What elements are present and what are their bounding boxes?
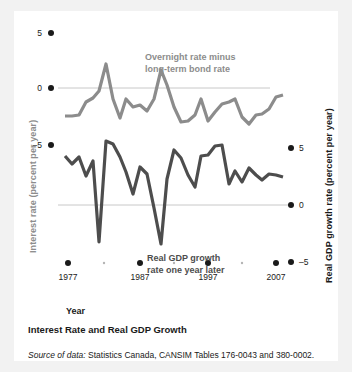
x-tick-dot-1987 [137, 260, 143, 266]
right-tick-dot-minus5 [288, 259, 294, 265]
right-tick-dot-5 [288, 145, 294, 151]
annotation-interest-line2: long-term bond rate [145, 63, 236, 75]
right-axis-title: Real GDP growth rate (percent per year) [324, 108, 334, 283]
right-tick-dot-0 [288, 202, 294, 208]
figure-card: 5 0 –5 5 0 –5 Interest rate (percent per… [14, 11, 338, 361]
left-axis-title: Interest rate (percent per year) [28, 120, 38, 253]
right-tick-label-0: 0 [299, 201, 304, 210]
x-tick-label-1997: 1997 [188, 272, 228, 282]
right-tick-label-minus5: –5 [299, 258, 308, 267]
left-tick-dot-minus5 [48, 142, 54, 148]
figure-title: Interest Rate and Real GDP Growth [28, 324, 187, 335]
left-tick-label-5: 5 [22, 29, 42, 38]
x-tick-dot-1977 [65, 260, 71, 266]
left-tick-dot-5 [48, 30, 54, 36]
x-tick-dot-minor-1982 [103, 262, 105, 264]
x-tick-label-1987: 1987 [120, 272, 160, 282]
x-tick-dot-2007 [273, 260, 279, 266]
x-tick-label-2007: 2007 [256, 272, 296, 282]
annotation-interest-line1: Overnight rate minus [145, 51, 236, 63]
source-prefix: Source of data: [28, 350, 86, 360]
x-axis-title: Year [66, 306, 85, 316]
left-tick-label-0: 0 [22, 84, 42, 93]
annotation-interest-rate: Overnight rate minus long-term bond rate [145, 51, 236, 75]
source-text: Statistics Canada, CANSIM Tables 176-004… [86, 350, 315, 360]
x-tick-dot-minor-2002 [241, 262, 243, 264]
x-tick-label-1977: 1977 [48, 272, 88, 282]
figure-source: Source of data: Statistics Canada, CANSI… [28, 349, 328, 361]
right-tick-label-5: 5 [299, 144, 304, 153]
left-tick-dot-0 [48, 85, 54, 91]
annotation-gdp-line1: Real GDP growth [147, 252, 225, 264]
series-line-gdp-growth [65, 141, 283, 244]
